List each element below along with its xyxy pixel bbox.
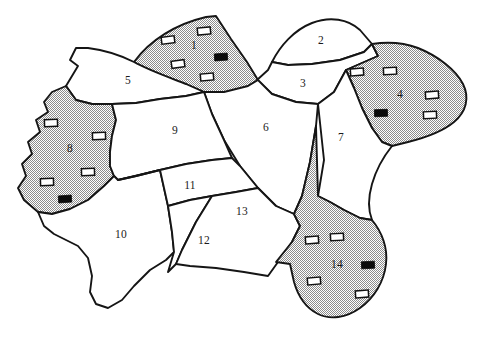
open-rectangle-symbol-r1-3 — [200, 73, 214, 81]
open-rectangle-symbol-r4-0 — [350, 68, 363, 76]
region-label-4: 4 — [397, 88, 403, 100]
open-rectangle-symbol-r1-0 — [161, 36, 175, 45]
region-label-5: 5 — [125, 74, 131, 86]
filled-rectangle-symbol-r14-4 — [361, 261, 374, 269]
region-label-2: 2 — [318, 34, 324, 46]
open-rectangle-symbol-r4-3 — [423, 111, 436, 119]
region-label-14: 14 — [331, 258, 343, 270]
map-canvas: 1234567891011121314 — [0, 0, 485, 340]
region-label-6: 6 — [263, 121, 269, 133]
open-rectangle-symbol-r8-3 — [40, 178, 53, 185]
region-label-12: 12 — [198, 234, 210, 246]
open-rectangle-symbol-r14-0 — [305, 236, 318, 244]
region-label-8: 8 — [67, 142, 73, 154]
open-rectangle-symbol-r8-2 — [81, 168, 94, 175]
open-rectangle-symbol-r4-1 — [383, 67, 396, 75]
open-rectangle-symbol-r8-1 — [92, 132, 105, 139]
region-label-9: 9 — [172, 124, 178, 136]
filled-rectangle-symbol-r8-4 — [58, 195, 71, 203]
region-label-11: 11 — [184, 179, 196, 191]
region-label-10: 10 — [115, 228, 127, 240]
regions-layer — [18, 16, 466, 317]
filled-rectangle-symbol-r4-4 — [374, 109, 387, 116]
open-rectangle-symbol-r1-1 — [197, 27, 211, 35]
open-rectangle-symbol-r4-2 — [425, 91, 438, 99]
open-rectangle-symbol-r8-0 — [44, 119, 57, 126]
open-rectangle-symbol-r14-1 — [330, 233, 343, 241]
open-rectangle-symbol-r14-3 — [355, 290, 368, 298]
filled-rectangle-symbol-r1-4 — [214, 53, 227, 61]
region-map-figure: 1234567891011121314 — [0, 0, 485, 340]
region-label-7: 7 — [338, 131, 344, 143]
region-label-1: 1 — [191, 39, 197, 51]
open-rectangle-symbol-r1-2 — [171, 60, 185, 69]
open-rectangle-symbol-r14-2 — [307, 277, 321, 285]
region-label-13: 13 — [236, 205, 248, 217]
region-label-3: 3 — [300, 77, 306, 89]
